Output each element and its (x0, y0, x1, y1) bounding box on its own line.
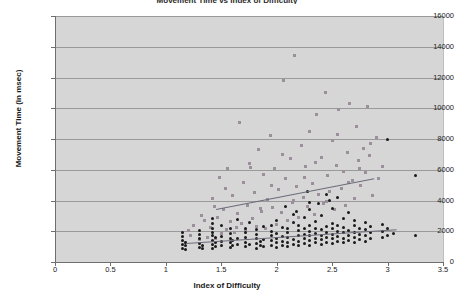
data-point (295, 210, 298, 213)
x-axis-title: Index of Difficulty (0, 281, 454, 290)
data-point (270, 224, 273, 227)
data-point (220, 224, 223, 227)
x-tick-mark (332, 262, 333, 266)
data-point (320, 238, 323, 241)
data-point (181, 247, 184, 250)
y-tick-mark (51, 231, 55, 232)
data-point (189, 234, 192, 237)
data-point (313, 213, 316, 216)
data-point (295, 185, 298, 188)
x-tick-mark (277, 262, 278, 266)
data-point (275, 223, 278, 226)
gridline-y (55, 170, 443, 171)
x-axis-line (55, 262, 444, 263)
data-point (275, 241, 278, 244)
data-point (325, 241, 328, 244)
data-point (211, 217, 214, 220)
data-point (211, 243, 214, 246)
x-tick-mark (55, 262, 56, 266)
y-tick-label: 14000 (408, 43, 454, 51)
data-point (292, 221, 295, 224)
x-tick-mark (221, 262, 222, 266)
data-point (286, 245, 289, 248)
data-point (277, 188, 280, 191)
data-point (184, 248, 187, 251)
data-point (347, 234, 350, 237)
data-point (211, 234, 214, 237)
data-point (282, 79, 285, 82)
data-point (381, 165, 384, 168)
data-point (284, 177, 287, 180)
data-point (211, 247, 214, 250)
data-point (386, 234, 389, 237)
x-tick-label: 2.5 (317, 266, 347, 274)
data-point (211, 222, 214, 225)
data-point (346, 151, 349, 154)
y-tick-label: 10000 (408, 104, 454, 112)
data-point (198, 238, 201, 241)
data-point (314, 220, 317, 223)
x-tick-label: 1 (151, 266, 181, 274)
data-point (320, 156, 323, 159)
data-point (253, 191, 256, 194)
data-point (364, 240, 367, 243)
y-axis-title: Movement Time (in msec) (14, 44, 23, 194)
data-point (236, 243, 239, 246)
data-point (292, 238, 295, 241)
data-point (381, 236, 384, 239)
data-point (325, 193, 328, 196)
data-point (286, 227, 289, 230)
data-point (220, 244, 223, 247)
data-point (317, 193, 320, 196)
data-point (231, 194, 234, 197)
data-point (303, 237, 306, 240)
gridline-y (55, 139, 443, 140)
data-point (340, 187, 343, 190)
data-point (333, 208, 336, 211)
data-point (342, 217, 345, 220)
data-point (214, 245, 217, 248)
data-point (371, 194, 374, 197)
data-point (303, 242, 306, 245)
data-point (213, 205, 216, 208)
x-tick-mark (166, 262, 167, 266)
data-point (320, 214, 323, 217)
gridline-y (55, 231, 443, 232)
data-point (201, 244, 204, 247)
data-point (255, 225, 258, 228)
data-point (292, 243, 295, 246)
data-point (242, 181, 245, 184)
y-tick-mark (51, 201, 55, 202)
data-point (353, 241, 356, 244)
data-point (308, 130, 311, 133)
data-point (281, 240, 284, 243)
x-tick-label: 3.5 (428, 266, 458, 274)
y-tick-label: 12000 (408, 74, 454, 82)
data-point (198, 233, 201, 236)
data-point (369, 237, 372, 240)
data-point (336, 196, 339, 199)
data-point (308, 239, 311, 242)
y-tick-mark (51, 16, 55, 17)
data-point (314, 227, 317, 230)
gridline-y (55, 78, 443, 79)
data-point (336, 235, 339, 238)
data-point (240, 222, 243, 225)
y-tick-label: 4000 (408, 197, 454, 205)
x-tick-label: 3 (373, 266, 403, 274)
data-point (304, 165, 307, 168)
data-point (236, 212, 239, 215)
data-point (357, 159, 360, 162)
data-point (314, 237, 317, 240)
data-point (336, 224, 339, 227)
data-point (270, 239, 273, 242)
x-tick-mark (388, 262, 389, 266)
data-point (355, 125, 358, 128)
data-point (342, 241, 345, 244)
data-point (181, 235, 184, 238)
data-point (311, 182, 314, 185)
data-point (303, 176, 306, 179)
data-point (259, 240, 262, 243)
data-point (369, 142, 372, 145)
data-point (255, 233, 258, 236)
